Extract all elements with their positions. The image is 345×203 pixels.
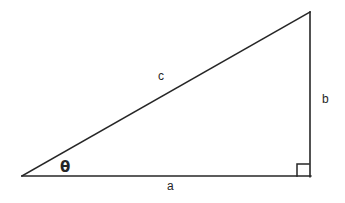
side-label-hypotenuse: c [158,70,164,82]
side-label-vertical: b [322,93,329,105]
hypotenuse-line [22,12,310,176]
angle-label-theta: θ [60,160,70,175]
diagram-canvas: c b a θ [0,0,345,203]
side-label-base: a [167,180,174,192]
right-triangle-figure [0,0,345,203]
right-angle-square-icon [297,164,309,176]
